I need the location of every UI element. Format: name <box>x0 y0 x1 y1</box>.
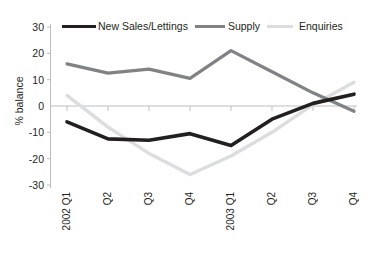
x-tick-label: Q2 <box>103 192 113 205</box>
x-axis-tick-labels: 2002 Q1 Q2 Q3 Q4 2003 Q1 Q2 Q3 Q4 <box>0 0 378 254</box>
line-chart: New Sales/Lettings Supply Enquiries % ba… <box>0 0 378 254</box>
x-tick-label: Q4 <box>349 192 359 205</box>
x-tick-label: Q2 <box>267 192 277 205</box>
x-tick-label: 2003 Q1 <box>226 192 236 230</box>
x-tick-label: Q3 <box>308 192 318 205</box>
x-tick-label: Q3 <box>144 192 154 205</box>
x-tick-label: 2002 Q1 <box>62 192 72 230</box>
x-tick-label: Q4 <box>185 192 195 205</box>
